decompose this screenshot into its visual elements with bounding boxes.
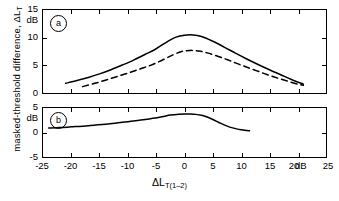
panel-a-yunit: dB: [14, 15, 38, 25]
xtick-label--5: -5: [141, 161, 171, 171]
panel-b-curve-solid: [49, 114, 250, 131]
x-axis-unit: dB: [295, 161, 307, 171]
panel-a-ytick-5: 5: [14, 60, 38, 70]
xtick-label-10: 10: [227, 161, 257, 171]
xtick-label--25: -25: [27, 161, 57, 171]
panel-a-plot-area: [43, 10, 326, 93]
xtick-label--10: -10: [113, 161, 143, 171]
x-axis-title-subscript: T(1–2): [165, 181, 187, 190]
xtick-label-0: 0: [170, 161, 200, 171]
panel-a-ytick-0: 0: [14, 88, 38, 98]
xtick-label--15: -15: [84, 161, 114, 171]
xtick-label-5: 5: [198, 161, 228, 171]
panel-a-curve-solid: [66, 35, 304, 84]
panel-b-ytick-5: 5: [14, 102, 38, 112]
panel-b-plot-area: [43, 108, 326, 157]
x-axis-title-symbol: ΔL: [152, 176, 165, 188]
xtick-label--20: -20: [56, 161, 86, 171]
figure-chart: masked-threshold difference, ΔLT a 15 dB…: [0, 0, 339, 201]
panel-a-ytick-10: 10: [14, 32, 38, 42]
panel-a-ytick-15: 15: [14, 4, 38, 14]
xtick-label-25: 25: [313, 161, 339, 171]
panel-b-yunit: dB: [14, 113, 38, 123]
panel-b-ytick-0: 0: [14, 127, 38, 137]
x-axis-title: ΔLT(1–2): [0, 176, 339, 190]
